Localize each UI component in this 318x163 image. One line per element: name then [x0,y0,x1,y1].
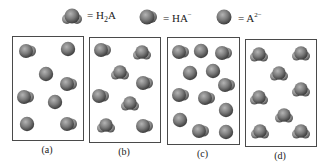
panel-box-a [12,36,84,141]
a-ion-icon [37,65,55,87]
ha-molecule-icon [217,76,235,98]
h2a-molecule-icon [251,123,269,145]
h2a-molecule-icon [270,65,288,87]
ha-molecule-icon [18,42,36,64]
panel-caption-c: (c) [188,148,218,159]
h2a-molecule-icon [292,81,310,103]
legend-label-h2a: = H2A [87,9,116,24]
panel-caption-a: (a) [32,144,62,155]
ha-molecule-icon [171,43,189,65]
a-ion-icon [59,40,77,62]
a-ion-icon [18,115,36,137]
ha-molecule-icon [135,117,153,139]
ha-molecule-icon [91,87,109,109]
a-ion-icon [215,8,233,26]
a-ion-icon [181,64,199,86]
h2a-molecule-icon [62,8,82,26]
ha-molecule-icon [59,115,77,137]
panel-caption-b: (b) [109,146,139,157]
ha-molecule-icon [16,88,34,110]
h2a-molecule-icon [292,123,310,145]
a-ion-icon [217,101,235,123]
h2a-molecule-icon [275,107,293,129]
h2a-molecule-icon [97,117,115,139]
ha-molecule-icon [191,122,209,144]
legend-item-a: = A2− [215,7,262,27]
panel-box-c [167,37,240,145]
h2a-molecule-icon [133,44,151,66]
ha-molecule-icon [171,86,189,108]
panel-box-b [89,37,161,143]
legend: = H2A = HA− = A2− [0,7,318,27]
legend-item-ha: = HA− [138,7,192,27]
ha-molecule-icon [138,8,158,26]
h2a-molecule-icon [111,64,129,86]
h2a-molecule-icon [250,46,268,68]
panel-box-d [245,39,317,147]
h2a-molecule-icon [121,95,139,117]
legend-label-ha: = HA− [163,11,192,24]
panel-caption-d: (d) [265,150,295,161]
a-ion-icon [46,93,64,115]
a-ion-icon [217,123,235,145]
h2a-molecule-icon [292,45,310,67]
a-ion-icon [171,111,189,133]
ha-molecule-icon [93,41,111,63]
legend-item-h2a: = H2A [62,7,116,27]
legend-label-a: = A2− [238,11,262,24]
ha-molecule-icon [135,74,153,96]
ha-molecule-icon [197,89,215,111]
h2a-molecule-icon [250,89,268,111]
a-ion-icon [192,42,210,64]
